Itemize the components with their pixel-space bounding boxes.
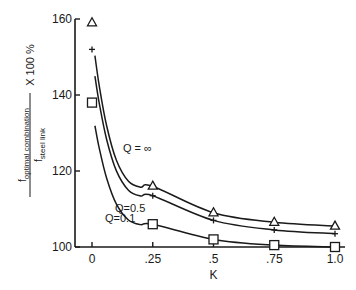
curve-label: Q=0.1	[105, 212, 135, 224]
x-axis-label: K	[209, 268, 217, 282]
y-tick-label: 140	[52, 88, 72, 102]
triangle-marker	[331, 221, 340, 229]
square-marker	[88, 98, 97, 107]
square-marker	[331, 243, 340, 252]
y-axis-label: foptimal combinationfsteel linkX 100 %	[17, 44, 47, 197]
x-tick-label: .5	[208, 252, 218, 266]
square-marker	[270, 241, 279, 250]
y-tick-label: 100	[52, 240, 72, 254]
y-tick-label: 120	[52, 164, 72, 178]
triangle-marker	[88, 18, 97, 26]
x-tick-label: 0	[89, 252, 96, 266]
x-tick-label: 1.0	[327, 252, 344, 266]
y-label-suffix: X 100 %	[24, 44, 36, 86]
square-marker	[148, 220, 157, 229]
chart: 1001201401600.25.5.751.0 Kfoptimal combi…	[0, 0, 356, 290]
axes: 1001201401600.25.5.751.0	[52, 12, 345, 266]
y-label-denominator: fsteel link	[33, 127, 47, 162]
x-tick-label: .75	[266, 252, 283, 266]
line-chart: 1001201401600.25.5.751.0 Kfoptimal combi…	[0, 0, 356, 290]
curve-label: Q = ∞	[123, 142, 152, 154]
curve-q-infinity	[95, 56, 335, 226]
y-label-numerator: foptimal combination	[17, 108, 31, 182]
x-tick-label: .25	[144, 252, 161, 266]
y-tick-label: 160	[52, 12, 72, 26]
square-marker	[209, 235, 218, 244]
